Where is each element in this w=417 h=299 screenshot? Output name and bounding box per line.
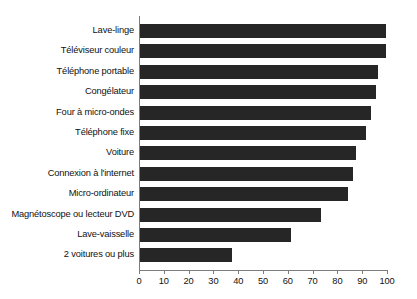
bar bbox=[140, 228, 291, 242]
tick-mark bbox=[362, 270, 363, 274]
tick-mark bbox=[189, 270, 190, 274]
bar-row: Voiture bbox=[0, 146, 417, 160]
category-label: Lave-linge bbox=[0, 23, 134, 37]
bar bbox=[140, 167, 353, 181]
bar-row: Téléphone portable bbox=[0, 65, 417, 79]
tick-mark bbox=[139, 270, 140, 274]
category-label: Micro-ordinateur bbox=[0, 186, 134, 200]
bar bbox=[140, 208, 321, 222]
bar-rows: Lave-lingeTéléviseur couleurTéléphone po… bbox=[0, 20, 417, 274]
tick-mark bbox=[337, 270, 338, 274]
bar-row: 2 voitures ou plus bbox=[0, 248, 417, 262]
bar-row: Téléphone fixe bbox=[0, 126, 417, 140]
category-label: Voiture bbox=[0, 145, 134, 159]
category-label: Téléphone portable bbox=[0, 64, 134, 78]
tick-mark bbox=[263, 270, 264, 274]
category-label: Téléphone fixe bbox=[0, 125, 134, 139]
bar bbox=[140, 146, 356, 160]
tick-mark bbox=[213, 270, 214, 274]
bar-row: Congélateur bbox=[0, 85, 417, 99]
category-label: Téléviseur couleur bbox=[0, 43, 134, 57]
bar bbox=[140, 106, 371, 120]
horizontal-bar-chart: Lave-lingeTéléviseur couleurTéléphone po… bbox=[0, 0, 417, 299]
bar-row: Micro-ordinateur bbox=[0, 187, 417, 201]
bar bbox=[140, 65, 378, 79]
bar-row: Magnétoscope ou lecteur DVD bbox=[0, 208, 417, 222]
tick-mark bbox=[387, 270, 388, 274]
bar bbox=[140, 85, 376, 99]
tick-mark bbox=[238, 270, 239, 274]
bar bbox=[140, 187, 348, 201]
tick-mark bbox=[313, 270, 314, 274]
x-axis-ticks: 0102030405060708090100 bbox=[0, 270, 417, 299]
category-label: Congélateur bbox=[0, 84, 134, 98]
bar-row: Connexion à l'internet bbox=[0, 167, 417, 181]
x-tick-label: 100 bbox=[372, 275, 402, 287]
bar-row: Téléviseur couleur bbox=[0, 44, 417, 58]
tick-mark bbox=[288, 270, 289, 274]
category-label: Lave-vaisselle bbox=[0, 227, 134, 241]
bar-row: Lave-vaisselle bbox=[0, 228, 417, 242]
tick-mark bbox=[164, 270, 165, 274]
bar bbox=[140, 126, 366, 140]
bar bbox=[140, 24, 386, 38]
category-label: 2 voitures ou plus bbox=[0, 247, 134, 261]
category-label: Connexion à l'internet bbox=[0, 166, 134, 180]
bar bbox=[140, 44, 386, 58]
bar bbox=[140, 248, 232, 262]
bar-row: Lave-linge bbox=[0, 24, 417, 38]
category-label: Magnétoscope ou lecteur DVD bbox=[0, 207, 134, 221]
category-label: Four à micro-ondes bbox=[0, 105, 134, 119]
bar-row: Four à micro-ondes bbox=[0, 106, 417, 120]
